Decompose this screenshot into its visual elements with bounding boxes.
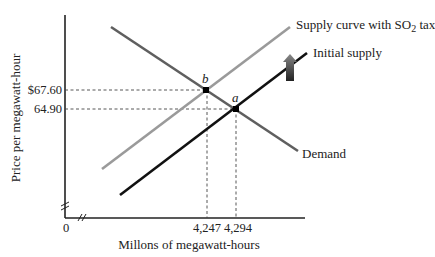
axes bbox=[61, 15, 305, 221]
y-tick-67-60: $67.60 bbox=[28, 83, 62, 97]
demand-label: Demand bbox=[302, 146, 347, 161]
x-tick-4247: 4,247 bbox=[193, 221, 221, 235]
guide-lines bbox=[65, 90, 236, 218]
point-a-marker bbox=[233, 106, 239, 112]
initial-supply-label: Initial supply bbox=[313, 45, 382, 60]
x-tick-4294: 4,294 bbox=[224, 221, 253, 235]
origin-label: 0 bbox=[63, 221, 69, 235]
y-tick-64-90: 64.90 bbox=[34, 102, 62, 116]
supply-demand-chart: b a Demand Initial supply Supply curve w… bbox=[0, 0, 435, 257]
point-a-label: a bbox=[232, 90, 239, 105]
point-b-label: b bbox=[202, 71, 209, 86]
shift-up-arrow-icon bbox=[283, 54, 297, 81]
tax-supply-label: Supply curve with SO2 tax bbox=[296, 17, 435, 34]
tax-supply-curve bbox=[102, 27, 290, 169]
point-b-marker bbox=[203, 87, 209, 93]
initial-supply-curve bbox=[120, 53, 307, 195]
x-axis-title: Millons of megawatt-hours bbox=[118, 237, 260, 252]
y-axis-title: Price per megawatt-hour bbox=[8, 53, 23, 182]
